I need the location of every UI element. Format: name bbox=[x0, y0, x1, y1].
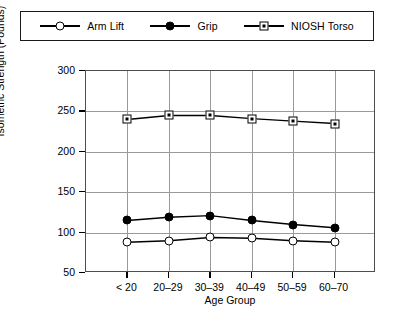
legend-label-arm-lift: Arm Lift bbox=[87, 20, 124, 32]
data-point-2-5 bbox=[330, 119, 339, 128]
x-tick-mark-0 bbox=[126, 272, 127, 278]
data-point-0-3 bbox=[247, 234, 256, 243]
x-tick-label-5: 60–70 bbox=[319, 281, 348, 293]
legend-swatch-arm-lift bbox=[40, 20, 80, 32]
data-point-1-0 bbox=[123, 216, 132, 225]
data-point-2-0 bbox=[123, 115, 132, 124]
filled-circle-icon bbox=[166, 22, 175, 31]
data-point-0-1 bbox=[164, 236, 173, 245]
legend-item-arm-lift: Arm Lift bbox=[40, 20, 124, 32]
data-point-2-4 bbox=[289, 117, 298, 126]
x-tick-mark-4 bbox=[292, 272, 293, 278]
data-point-0-0 bbox=[123, 238, 132, 247]
data-point-1-3 bbox=[247, 216, 256, 225]
data-point-1-4 bbox=[289, 220, 298, 229]
data-point-1-1 bbox=[164, 213, 173, 222]
legend-swatch-niosh-torso bbox=[244, 20, 284, 32]
y-tick-mark-50 bbox=[79, 272, 85, 273]
x-tick-label-3: 40–49 bbox=[236, 281, 265, 293]
legend-item-niosh-torso: NIOSH Torso bbox=[244, 20, 354, 32]
x-tick-mark-1 bbox=[168, 272, 169, 278]
y-tick-label-250: 250 bbox=[39, 104, 75, 116]
data-point-2-1 bbox=[164, 111, 173, 120]
open-circle-icon bbox=[56, 22, 65, 31]
x-tick-mark-5 bbox=[334, 272, 335, 278]
y-tick-label-300: 300 bbox=[39, 64, 75, 76]
x-tick-label-2: 30–39 bbox=[195, 281, 224, 293]
data-point-0-5 bbox=[330, 238, 339, 247]
chart-figure: Arm Lift Grip NIOSH Torso Isometric Stre… bbox=[0, 0, 398, 322]
data-point-1-2 bbox=[206, 211, 215, 220]
plot-area bbox=[85, 70, 375, 272]
legend-label-niosh-torso: NIOSH Torso bbox=[291, 20, 354, 32]
x-tick-label-0: < 20 bbox=[116, 281, 137, 293]
data-point-2-3 bbox=[247, 114, 256, 123]
dotted-square-icon bbox=[260, 22, 269, 31]
y-tick-label-100: 100 bbox=[39, 226, 75, 238]
series-markers bbox=[86, 71, 374, 271]
data-point-0-4 bbox=[289, 236, 298, 245]
data-point-2-2 bbox=[206, 111, 215, 120]
x-axis-label: Age Group bbox=[85, 294, 375, 306]
y-tick-label-150: 150 bbox=[39, 185, 75, 197]
legend-item-grip: Grip bbox=[150, 20, 217, 32]
x-tick-label-4: 50–59 bbox=[277, 281, 306, 293]
legend-swatch-grip bbox=[150, 20, 190, 32]
x-tick-mark-2 bbox=[209, 272, 210, 278]
chart-legend: Arm Lift Grip NIOSH Torso bbox=[20, 11, 374, 41]
x-tick-label-1: 20–29 bbox=[153, 281, 182, 293]
y-tick-label-50: 50 bbox=[39, 266, 75, 278]
legend-label-grip: Grip bbox=[197, 20, 217, 32]
data-point-0-2 bbox=[206, 233, 215, 242]
data-point-1-5 bbox=[330, 223, 339, 232]
x-tick-mark-3 bbox=[251, 272, 252, 278]
y-axis-label: Isometric Strength (Pounds) bbox=[0, 0, 6, 171]
y-tick-label-200: 200 bbox=[39, 145, 75, 157]
